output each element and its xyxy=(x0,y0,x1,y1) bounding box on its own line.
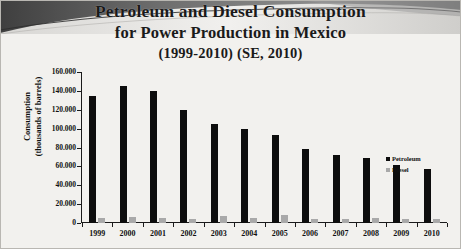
bar-group xyxy=(143,72,173,223)
x-axis-tick-label: 2004 xyxy=(234,229,264,239)
y-axis-tick xyxy=(77,129,81,130)
y-axis-tick xyxy=(77,166,81,167)
y-axis-tick xyxy=(77,72,81,73)
x-axis-tick xyxy=(173,223,174,227)
x-axis-tick xyxy=(447,223,448,227)
bar-petroleum xyxy=(89,96,96,223)
bar-group xyxy=(325,72,355,223)
bar-petroleum xyxy=(272,135,279,223)
x-axis-tick xyxy=(112,223,113,227)
bar-group xyxy=(82,72,112,223)
x-axis-tick xyxy=(386,223,387,227)
bar-diesel xyxy=(220,216,227,223)
bar-diesel xyxy=(250,218,257,223)
bar-group xyxy=(204,72,234,223)
bar-group xyxy=(295,72,325,223)
chart-title-block: Petroleum and Diesel Consumption for Pow… xyxy=(0,1,461,63)
y-axis-tick-label: 0 xyxy=(30,219,76,227)
x-axis-tick-label: 2007 xyxy=(325,229,355,239)
y-axis-tick xyxy=(77,185,81,186)
y-axis-tick xyxy=(77,110,81,111)
bar-petroleum xyxy=(180,110,187,223)
legend-item-label: Diesel xyxy=(392,166,409,174)
y-axis-tick-label: 100.000 xyxy=(30,125,76,133)
x-axis-tick xyxy=(265,223,266,227)
bar-group xyxy=(234,72,264,223)
bar-diesel xyxy=(372,218,379,223)
x-axis-tick xyxy=(204,223,205,227)
legend-swatch-icon xyxy=(386,168,390,172)
bar-diesel xyxy=(281,215,288,223)
y-axis-tick xyxy=(77,148,81,149)
bar-group xyxy=(386,72,416,223)
bar-diesel xyxy=(342,219,349,223)
y-axis-tick-label: 80.000 xyxy=(30,144,76,152)
y-axis-tick xyxy=(77,223,81,224)
bar-petroleum xyxy=(424,169,431,223)
bar-petroleum xyxy=(302,149,309,223)
x-axis-tick-label: 2003 xyxy=(204,229,234,239)
x-axis-tick-label: 2006 xyxy=(295,229,325,239)
chart-legend: PetroleumDiesel xyxy=(386,154,460,176)
y-axis-tick-label: 140.000 xyxy=(30,87,76,95)
bar-petroleum xyxy=(120,86,127,223)
y-axis-tick xyxy=(77,204,81,205)
bar-diesel xyxy=(402,219,409,223)
x-axis-tick xyxy=(82,223,83,227)
x-axis-tick-label: 2005 xyxy=(265,229,295,239)
bar-diesel xyxy=(311,219,318,223)
y-axis-tick-label: 20.000 xyxy=(30,200,76,208)
bar-group xyxy=(112,72,142,223)
chart-title-line-2: for Power Production in Mexico xyxy=(0,22,461,43)
bar-diesel xyxy=(129,217,136,223)
bar-group xyxy=(356,72,386,223)
chart-subtitle: (1999-2010) (SE, 2010) xyxy=(0,43,461,63)
y-axis-tick-labels: 160.000140.000120.000100.00080.00060.000… xyxy=(30,68,76,223)
x-axis-tick xyxy=(356,223,357,227)
legend-item: Petroleum xyxy=(386,154,460,163)
x-axis-tick xyxy=(417,223,418,227)
y-axis-tick xyxy=(77,91,81,92)
legend-swatch-icon xyxy=(386,157,390,161)
bar-group xyxy=(173,72,203,223)
y-axis-tick-label: 160.000 xyxy=(30,68,76,76)
legend-item: Diesel xyxy=(386,165,460,174)
x-axis-tick-label: 1999 xyxy=(82,229,112,239)
bar-group xyxy=(417,72,447,223)
y-axis-tick-label: 60.000 xyxy=(30,162,76,170)
chart-screenshot: Petroleum and Diesel Consumption for Pow… xyxy=(0,0,461,249)
bar-diesel xyxy=(159,218,166,223)
x-axis-tick xyxy=(234,223,235,227)
x-axis-tick xyxy=(325,223,326,227)
x-axis-tick-label: 2002 xyxy=(173,229,203,239)
y-axis-tick-label: 40.000 xyxy=(30,181,76,189)
bar-diesel xyxy=(189,219,196,223)
bar-group xyxy=(265,72,295,223)
legend-item-label: Petroleum xyxy=(392,155,421,163)
bar-diesel xyxy=(433,219,440,223)
bar-diesel xyxy=(98,218,105,223)
chart-title-line-1: Petroleum and Diesel Consumption xyxy=(0,1,461,22)
bar-petroleum xyxy=(333,155,340,223)
bar-petroleum xyxy=(211,124,218,223)
x-axis-tick-label: 2010 xyxy=(417,229,447,239)
x-axis-tick-label: 2009 xyxy=(386,229,416,239)
bar-petroleum xyxy=(241,129,248,223)
bar-series-container xyxy=(82,72,447,223)
x-axis-tick-label: 2000 xyxy=(112,229,142,239)
x-axis-tick-label: 2001 xyxy=(143,229,173,239)
x-axis-tick-labels: 1999200020012002200320042005200620072008… xyxy=(82,229,447,247)
plot-area: Consumption (thousands of barrels) 160.0… xyxy=(0,68,461,249)
bar-petroleum xyxy=(363,158,370,223)
y-axis-tick-label: 120.000 xyxy=(30,106,76,114)
x-axis-tick xyxy=(143,223,144,227)
x-axis-tick-label: 2008 xyxy=(356,229,386,239)
bar-petroleum xyxy=(150,91,157,223)
x-axis-tick xyxy=(295,223,296,227)
